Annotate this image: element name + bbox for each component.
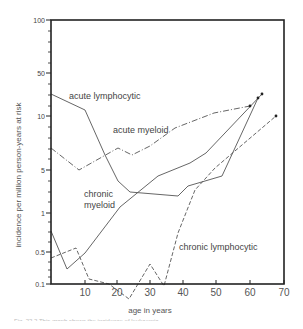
x-axis-title: age in years: [128, 306, 172, 315]
series-endpoint-marker: [257, 97, 260, 100]
series-endpoint-marker: [261, 93, 264, 96]
figure-caption: Fig. 22.2 This graph shows the incidence…: [14, 318, 294, 321]
label-acute-myeloid: acute myeloid: [113, 125, 169, 135]
label-acute-lymphocytic: acute lymphocytic: [69, 91, 141, 101]
leukaemia-incidence-chart: 1005010510.50.1 10203040506070 acute lym…: [0, 0, 303, 329]
y-axis-ticks: 1005010510.50.1: [33, 17, 51, 288]
series-endpoint-marker: [249, 105, 252, 108]
label-chronic-myeloid-line2: myeloid: [84, 200, 115, 210]
x-tick-label: 40: [177, 287, 189, 298]
y-tick-label: 1: [41, 210, 45, 217]
label-chronic-myeloid-line1: chronic: [84, 189, 114, 199]
x-tick-label: 10: [79, 287, 91, 298]
x-axis-ticks: 10203040506070: [79, 280, 290, 298]
y-tick-label: 10: [37, 113, 45, 120]
x-tick-label: 70: [278, 287, 290, 298]
y-tick-label: 5: [41, 167, 45, 174]
x-tick-label: 50: [210, 287, 222, 298]
label-chronic-lymphocytic: chronic lymphocytic: [179, 242, 258, 252]
y-tick-label: 0.1: [35, 281, 45, 288]
y-tick-label: 0.5: [35, 249, 45, 256]
x-tick-label: 20: [111, 287, 123, 298]
x-tick-label: 30: [144, 287, 156, 298]
y-tick-label: 50: [37, 70, 45, 77]
x-tick-label: 60: [244, 287, 256, 298]
series-endpoint-marker: [275, 115, 278, 118]
y-axis-title: incidence per million person-years at ri…: [14, 102, 23, 248]
y-tick-label: 100: [33, 17, 45, 24]
acute-lymphocytic-line: [51, 94, 258, 196]
